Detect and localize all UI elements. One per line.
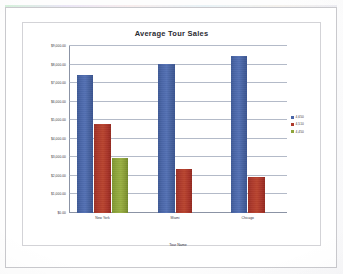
- y-axis-tick-label: $3,000.00: [51, 155, 66, 159]
- y-axis-tick-label: $6,000.00: [51, 100, 66, 104]
- chart-title: Average Tour Sales: [23, 29, 320, 38]
- bar-group: [69, 46, 142, 213]
- legend-label: 4,650: [296, 115, 304, 119]
- legend-item[interactable]: 4,650: [291, 115, 304, 119]
- chart-legend: 4,6504,5104,450: [291, 115, 304, 134]
- bar: [158, 64, 175, 213]
- legend-swatch-icon: [291, 116, 294, 119]
- bar: [176, 169, 193, 213]
- y-axis-tick-label: $7,000.00: [51, 81, 66, 85]
- y-axis-tick-label: $0.00: [57, 211, 66, 215]
- y-axis-tick-label: $1,000.00: [51, 192, 66, 196]
- y-axis-tick-label: $9,000.00: [51, 44, 66, 48]
- x-axis-category-label: Miami: [171, 216, 180, 220]
- y-axis-tick-label: $2,000.00: [51, 174, 66, 178]
- bar-group: [142, 46, 215, 213]
- x-axis-category-label: New York: [95, 216, 109, 220]
- legend-label: 4,450: [296, 130, 304, 134]
- chart-frame: Average Tour Sales $0.00$1,000.00$2,000.…: [22, 22, 321, 246]
- y-axis-tick-label: $8,000.00: [51, 63, 66, 67]
- y-axis-tick-label: $4,000.00: [51, 137, 66, 141]
- bar: [112, 158, 129, 213]
- y-axis-tick-label: $5,000.00: [51, 118, 66, 122]
- scanned-page: Average Tour Sales $0.00$1,000.00$2,000.…: [0, 0, 343, 274]
- legend-label: 4,510: [296, 122, 304, 126]
- bar: [94, 124, 111, 213]
- plot-area: $0.00$1,000.00$2,000.00$3,000.00$4,000.0…: [69, 46, 287, 213]
- legend-swatch-icon: [291, 123, 294, 126]
- legend-swatch-icon: [291, 130, 294, 133]
- bar: [248, 177, 265, 213]
- bar: [231, 56, 248, 213]
- x-axis-title: Tour Name: [69, 243, 287, 247]
- bar: [77, 75, 94, 213]
- bar-group: [214, 46, 287, 213]
- legend-item[interactable]: 4,450: [291, 130, 304, 134]
- x-axis-category-label: Chicago: [242, 216, 254, 220]
- legend-item[interactable]: 4,510: [291, 122, 304, 126]
